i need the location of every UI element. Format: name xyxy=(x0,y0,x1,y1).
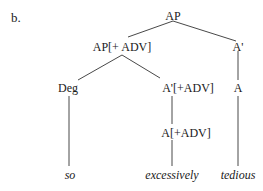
node-ap-adv: AP[+ ADV] xyxy=(93,41,151,53)
syntax-tree-diagram: b. AP AP[+ ADV] A' Deg A'[+ADV] A A[+ADV… xyxy=(0,0,263,191)
node-a-bar-adv: A'[+ADV] xyxy=(162,82,214,94)
leaf-excessively: excessively xyxy=(145,169,198,181)
node-a-bar: A' xyxy=(233,41,244,53)
example-marker: b. xyxy=(11,10,21,26)
node-ap-root: AP xyxy=(165,10,180,22)
node-a-adv: A[+ADV] xyxy=(161,127,210,139)
leaf-tedious: tedious xyxy=(221,169,256,181)
node-a: A xyxy=(234,82,243,94)
leaf-so: so xyxy=(65,169,76,181)
tree-edges xyxy=(0,0,263,191)
node-deg: Deg xyxy=(58,82,78,94)
